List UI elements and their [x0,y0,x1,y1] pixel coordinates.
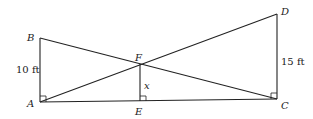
point-label-B: B [26,32,34,43]
point-label-F: F [134,52,143,63]
measurement-AB: 10 ft [16,64,40,75]
geometry-diagram: B A D C F E 10 ft 15 ft x [0,0,313,119]
measurement-EF: x [144,80,150,91]
point-label-A: A [26,98,34,109]
point-label-E: E [134,106,143,117]
segment-AD [40,14,277,102]
segment-BC [40,38,277,99]
measurement-CD: 15 ft [281,56,305,67]
point-label-D: D [280,6,289,17]
segment-AC [40,99,277,102]
point-label-C: C [281,100,289,111]
